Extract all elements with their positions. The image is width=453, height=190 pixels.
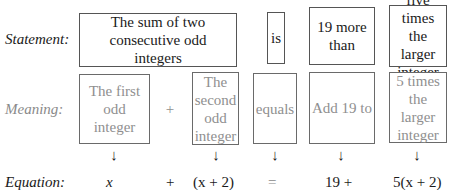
meaning-box-second-odd-integer: The second odd integer — [192, 72, 239, 145]
meaning-text: equals — [256, 100, 294, 118]
meaning-text: 5 times the larger integer — [391, 72, 445, 144]
statement-box-five-times: five times the larger integer — [389, 5, 447, 67]
down-arrow-icon: ↓ — [104, 147, 124, 163]
equation-term-x-plus-2: (x + 2) — [193, 173, 234, 190]
meaning-box-add-19-to: Add 19 to — [309, 72, 375, 144]
statement-text: is — [271, 29, 281, 47]
equation-row-label: Equation: — [5, 173, 65, 190]
meaning-text: Add 19 to — [312, 99, 372, 117]
meaning-box-first-odd-integer: The first odd integer — [79, 74, 150, 144]
equation-term-x: x — [106, 173, 113, 190]
meaning-box-5-times-larger: 5 times the larger integer — [389, 72, 447, 143]
statement-row-label: Statement: — [5, 30, 69, 48]
meaning-row-label: Meaning: — [5, 100, 63, 118]
equation-equals: = — [268, 173, 276, 190]
meaning-plus: + — [162, 100, 178, 118]
statement-text: 19 more than — [314, 18, 370, 54]
equation-term-5-times: 5(x + 2) — [393, 173, 441, 190]
down-arrow-icon: ↓ — [331, 147, 351, 163]
equation-term-19-plus: 19 + — [325, 173, 352, 190]
meaning-text: The second odd integer — [194, 73, 237, 145]
down-arrow-icon: ↓ — [407, 147, 427, 163]
statement-box-sum: The sum of two consecutive odd integers — [79, 13, 237, 67]
statement-box-is: is — [267, 12, 285, 64]
statement-text: five times the larger integer — [391, 0, 445, 81]
meaning-box-equals: equals — [253, 73, 297, 144]
statement-text: The sum of two consecutive odd integers — [86, 13, 230, 67]
meaning-text: The first odd integer — [82, 82, 147, 136]
down-arrow-icon: ↓ — [265, 147, 285, 163]
statement-box-19-more-than: 19 more than — [309, 7, 375, 65]
down-arrow-icon: ↓ — [206, 147, 226, 163]
equation-plus: + — [166, 173, 174, 190]
